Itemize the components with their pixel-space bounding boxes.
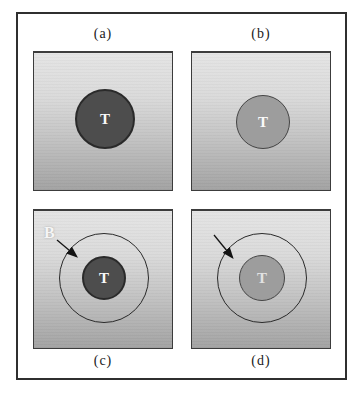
tumor-circle-b: T [236,95,290,149]
figure-canvas: (a) (b) (c) (d) T T T B [0,0,363,395]
tumor-circle-d: T [239,255,285,301]
caption-panel-b: (b) [191,26,331,42]
tumor-label-c: T [99,271,109,286]
tumor-label-a: T [100,112,110,127]
boundary-label-c: B [44,224,55,242]
tumor-circle-c: T [82,256,126,300]
image-panel-b: T [191,51,331,191]
image-panel-d: T [191,209,331,349]
image-panel-c: T B [33,209,173,349]
caption-panel-c: (c) [33,353,173,369]
tumor-label-d: T [257,271,267,286]
caption-panel-a: (a) [33,26,173,42]
image-panel-a: T [33,51,173,191]
tumor-circle-a: T [75,89,135,149]
tumor-label-b: T [258,115,268,130]
caption-panel-d: (d) [191,353,331,369]
